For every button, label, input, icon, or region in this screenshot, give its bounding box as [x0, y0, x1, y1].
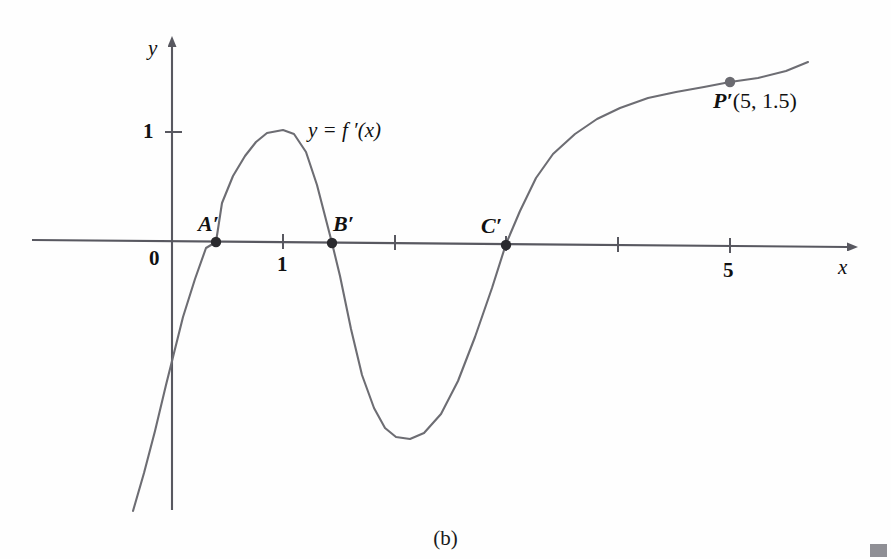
point-a-prime-marker [211, 237, 221, 247]
x-tick-label-1: 1 [277, 254, 288, 275]
point-p-prime-marker [725, 77, 735, 87]
page-corner-mark [870, 544, 887, 557]
point-a-prime-label: A′ [198, 213, 219, 235]
point-p-prime-label: P′(5, 1.5) [713, 90, 797, 112]
point-b-prime-label: B′ [333, 213, 354, 235]
figure-caption: (b) [0, 526, 891, 551]
y-tick-label-1: 1 [143, 121, 154, 142]
derivative-graph-svg [0, 0, 891, 559]
figure-panel-b: y x 0 1 5 1 y = f ′(x) A′ B′ C′ P′(5, 1.… [0, 0, 891, 559]
x-axis-label: x [838, 257, 847, 278]
point-c-prime-label: C′ [481, 215, 502, 237]
origin-label: 0 [149, 248, 160, 269]
point-p-prime-coords: (5, 1.5) [733, 88, 797, 113]
point-c-prime-marker [501, 240, 511, 250]
x-tick-label-5: 5 [723, 260, 734, 281]
derivative-curve [133, 62, 808, 511]
point-b-prime-marker [327, 238, 337, 248]
point-p-prime-name: P′ [713, 88, 733, 113]
curve-equation-label: y = f ′(x) [308, 120, 381, 141]
y-axis-label: y [148, 38, 157, 59]
